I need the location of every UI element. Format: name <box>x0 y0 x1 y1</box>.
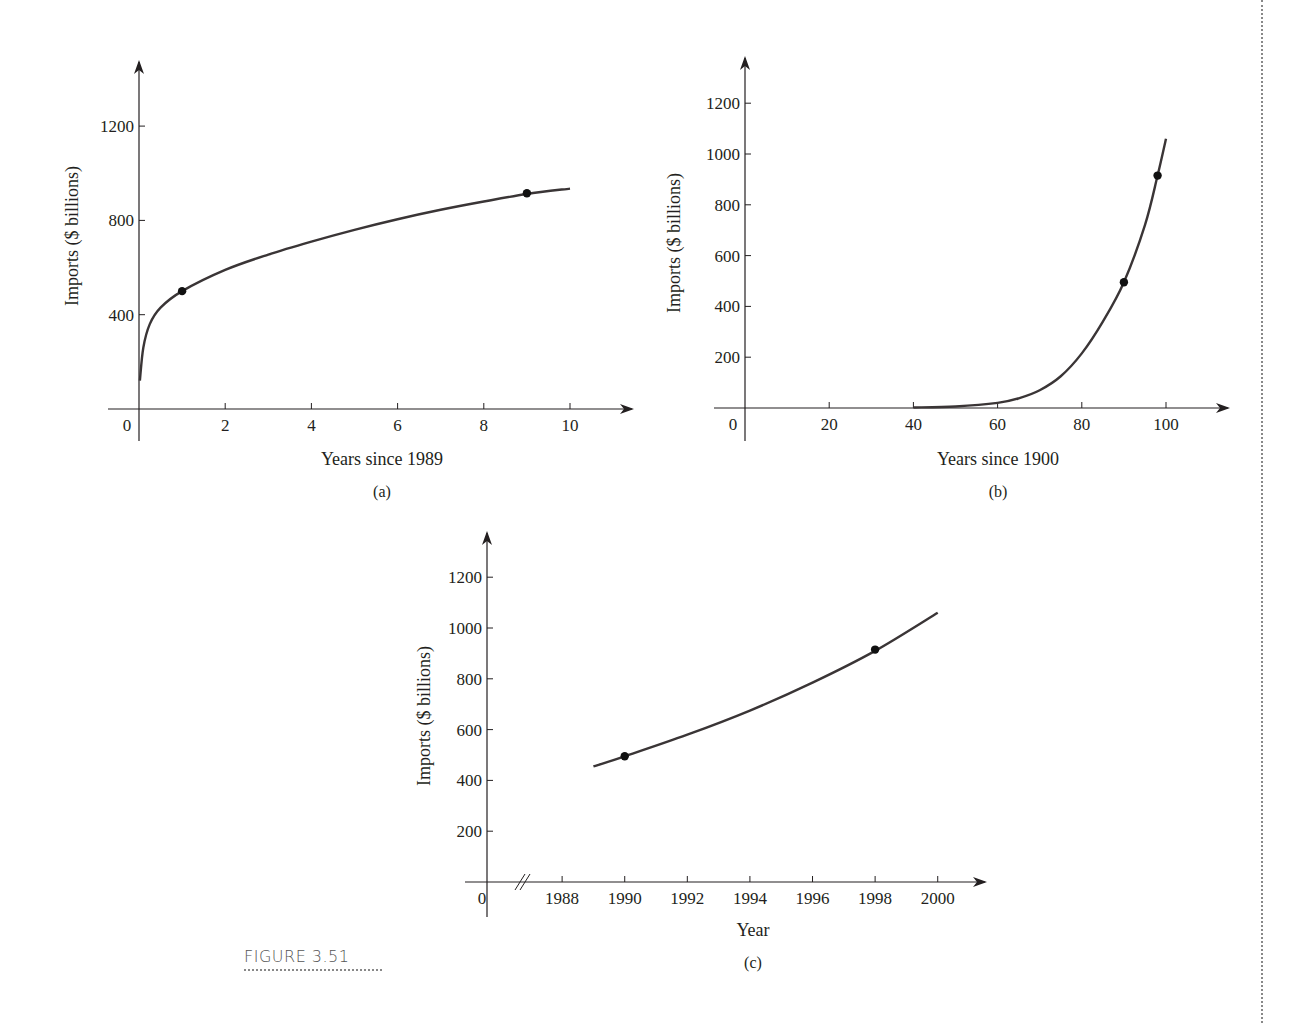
figure-label: FIGURE 3.51 <box>244 947 349 966</box>
figure-label-underline <box>244 969 382 971</box>
y-tick-label: 800 <box>109 211 135 230</box>
data-point <box>178 287 186 295</box>
y-axis-title: Imports ($ billions) <box>414 646 435 786</box>
y-tick-label: 600 <box>715 247 741 266</box>
y-tick-label: 1200 <box>100 117 134 136</box>
x-tick-label: 2000 <box>921 889 955 908</box>
y-tick-label: 200 <box>457 822 483 841</box>
chart-panel-b: 02040608010020040060080010001200Years si… <box>664 58 1228 501</box>
x-tick-label: 60 <box>989 415 1006 434</box>
y-tick-label: 1000 <box>706 145 740 164</box>
x-tick-label: 1992 <box>670 889 704 908</box>
model-curve <box>913 139 1166 408</box>
figure-canvas: 02468104008001200Years since 1989Imports… <box>0 0 1292 1023</box>
x-tick-label: 4 <box>307 416 316 435</box>
panel-label: (b) <box>989 483 1008 501</box>
y-tick-label: 400 <box>109 306 135 325</box>
x-axis-title: Years since 1989 <box>321 449 443 469</box>
y-tick-label: 400 <box>457 771 483 790</box>
x-tick-label: 1996 <box>796 889 830 908</box>
margin-dotted-rule <box>1261 0 1263 1023</box>
y-tick-label: 400 <box>715 297 741 316</box>
model-curve <box>140 189 570 381</box>
x-tick-label: 8 <box>480 416 489 435</box>
x-tick-label: 0 <box>123 416 132 435</box>
data-point <box>1120 278 1128 286</box>
x-tick-label: 1998 <box>858 889 892 908</box>
y-tick-label: 800 <box>715 196 741 215</box>
x-tick-label: 6 <box>393 416 402 435</box>
chart-panel-c: 0198819901992199419961998200020040060080… <box>414 533 985 972</box>
x-tick-label: 0 <box>478 889 487 908</box>
y-tick-label: 1000 <box>448 619 482 638</box>
y-tick-label: 600 <box>457 721 483 740</box>
x-axis-title: Year <box>736 920 769 940</box>
y-tick-label: 1200 <box>706 94 740 113</box>
y-axis-title: Imports ($ billions) <box>62 166 83 306</box>
x-axis-title: Years since 1900 <box>937 449 1059 469</box>
data-point <box>871 645 879 653</box>
x-tick-label: 1988 <box>545 889 579 908</box>
y-tick-label: 200 <box>715 348 741 367</box>
x-tick-label: 1990 <box>608 889 642 908</box>
x-tick-label: 10 <box>562 416 579 435</box>
data-point <box>621 752 629 760</box>
panel-label: (c) <box>744 954 762 972</box>
x-tick-label: 2 <box>221 416 230 435</box>
y-tick-label: 800 <box>457 670 483 689</box>
data-point <box>523 189 531 197</box>
y-axis-title: Imports ($ billions) <box>664 173 685 313</box>
model-curve <box>593 613 937 767</box>
x-tick-label: 1994 <box>733 889 768 908</box>
panel-label: (a) <box>373 483 391 501</box>
data-point <box>1153 171 1161 179</box>
chart-panel-a: 02468104008001200Years since 1989Imports… <box>62 62 632 501</box>
x-tick-label: 80 <box>1073 415 1090 434</box>
y-tick-label: 1200 <box>448 568 482 587</box>
x-tick-label: 0 <box>729 415 738 434</box>
x-tick-label: 40 <box>905 415 922 434</box>
x-tick-label: 100 <box>1153 415 1179 434</box>
x-tick-label: 20 <box>821 415 838 434</box>
